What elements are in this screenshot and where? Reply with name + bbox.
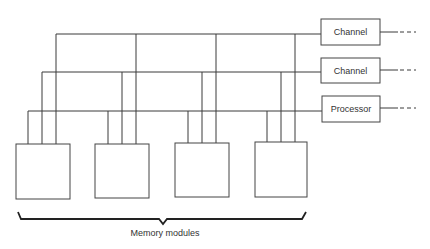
processor-box: Processor [322,96,416,122]
memory-interconnect-diagram: Channel Channel Processor Memory modules [0,0,430,249]
memory-modules-brace [18,212,306,224]
channel-1-box: Channel [321,19,416,45]
channel-2-label: Channel [334,66,368,76]
bus-channel-2 [42,72,321,144]
processor-label: Processor [331,104,372,114]
memory-module-2 [95,144,149,198]
memory-module-4 [255,142,307,197]
memory-module-1 [16,144,70,199]
channel-1-label: Channel [334,27,368,37]
channel-2-box: Channel [321,58,416,83]
memory-modules-label: Memory modules [130,228,200,238]
bus-processor [28,111,322,144]
memory-module-3 [175,143,229,197]
